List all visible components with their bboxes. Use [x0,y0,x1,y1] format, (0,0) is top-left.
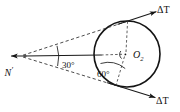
force-label-upper: ΔT [157,4,170,15]
center-angle-label: 60° [97,69,110,79]
tangent-angle-diagram: N′ O2 30° 60° ΔT ΔT [0,0,180,112]
center-point-dot [125,54,127,56]
radius-to-upper-tangent [126,21,128,52]
center-label: O2 [133,49,144,62]
force-label-lower: ΔT [156,95,169,106]
apex-angle-label: 30° [62,60,75,70]
center-vertex-tick [120,51,122,59]
center-label-subscript: 2 [140,55,144,62]
upper-tangent-dashed-segment [23,21,128,55]
apex-label: N′ [4,66,14,78]
center-axis-dashed-segment [101,54,122,55]
center-axis-line [25,55,102,56]
lower-tangent-line [108,83,156,98]
apex-label-prime: ′ [11,66,13,75]
center-label-letter: O [133,49,140,60]
radius-to-lower-tangent [116,57,125,86]
